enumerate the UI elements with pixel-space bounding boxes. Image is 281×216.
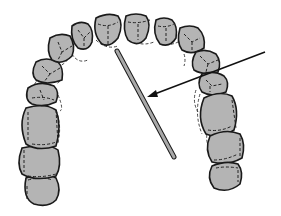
instrument-rod bbox=[117, 51, 174, 157]
tooth-molar-3-right bbox=[209, 162, 241, 190]
teeth-left bbox=[19, 14, 121, 205]
tooth-molar-2-left bbox=[19, 145, 60, 178]
tooth-central-incisor-right bbox=[124, 14, 149, 44]
tooth-lateral-incisor-right bbox=[155, 18, 177, 45]
dental-arch-diagram bbox=[0, 0, 281, 216]
tooth-premolar-2-left bbox=[27, 83, 58, 105]
diagram-canvas bbox=[0, 0, 281, 216]
tooth-canine-right bbox=[178, 26, 204, 53]
tooth-central-incisor-left bbox=[95, 14, 121, 45]
